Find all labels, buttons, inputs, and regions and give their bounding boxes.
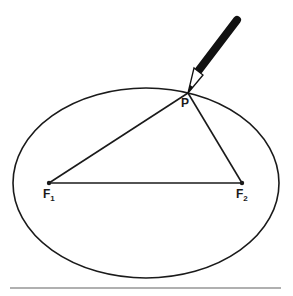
point-p-label: P: [181, 96, 189, 110]
pencil-icon: [188, 20, 237, 93]
focus-1-dot: [47, 181, 51, 185]
ellipse-diagram: P F1 F2: [0, 0, 293, 296]
string-f1-p: [49, 93, 188, 183]
string-triangle: [49, 93, 242, 183]
focus-2-dot: [240, 181, 244, 185]
focus-1-label: F1: [43, 187, 55, 203]
string-p-f2: [188, 93, 242, 183]
focus-2-label: F2: [236, 187, 248, 203]
